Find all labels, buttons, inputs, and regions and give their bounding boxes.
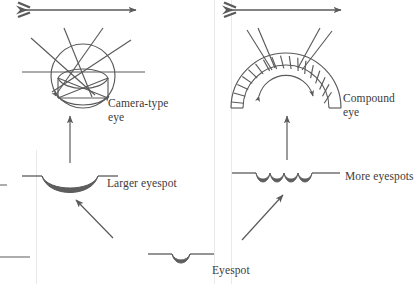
more-eyespots-glyph xyxy=(232,173,340,182)
diagram-canvas xyxy=(0,0,419,284)
guide-lines xyxy=(37,0,232,284)
label-larger-eyespot: Larger eyespot xyxy=(107,177,177,191)
compound-eye-glyph xyxy=(231,28,341,108)
light-arrow-right xyxy=(222,3,341,18)
camera-eye-inversion-arc xyxy=(57,96,109,105)
arrow-eyespot-to-larger xyxy=(76,200,113,238)
ommatidia-dividers xyxy=(232,56,332,104)
larger-eyespot-cup xyxy=(42,176,98,193)
label-more-eyespots: More eyespots xyxy=(345,170,414,184)
eyespot-cup xyxy=(172,254,190,263)
more-eyespots-cups xyxy=(256,173,312,182)
compound-eye-inner-arc xyxy=(243,65,329,108)
eyespot-glyph xyxy=(148,254,214,263)
light-arrow-left xyxy=(16,3,136,18)
label-compound-eye: Compound eye xyxy=(343,92,395,119)
label-camera-type-eye: Camera-type eye xyxy=(108,97,169,124)
camera-type-eye-glyph xyxy=(22,28,145,108)
compound-eye-orientation-arc xyxy=(259,75,313,96)
eye-evolution-figure: Camera-type eye Compound eye Larger eyes… xyxy=(0,0,419,284)
guide-ticks xyxy=(0,185,30,257)
label-eyespot: Eyespot xyxy=(212,264,250,278)
arrow-eyespot-to-more xyxy=(242,195,283,240)
